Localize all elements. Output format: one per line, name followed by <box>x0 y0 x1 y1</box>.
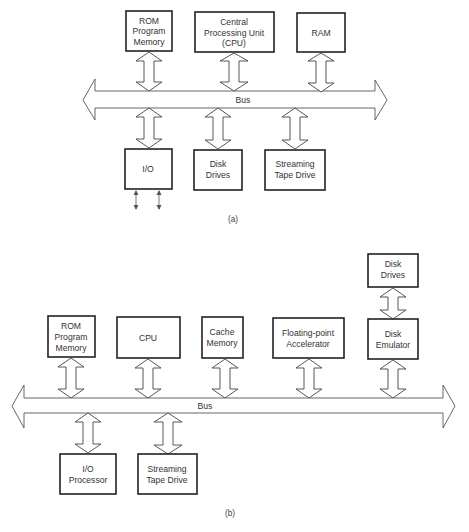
cpu-label-line1: Central <box>220 17 248 27</box>
diagram-b: Disk Drives ROM Program Memory CPU Cache… <box>12 254 455 518</box>
floating-point-accelerator-block: Floating-point Accelerator <box>273 318 344 358</box>
bus-label: Bus <box>236 95 251 105</box>
cpu-bus-connector-arrow <box>135 359 161 398</box>
cache-label-line1: Cache <box>210 327 235 337</box>
ram-block: RAM <box>297 13 345 52</box>
rom-label-line1: ROM <box>139 16 159 26</box>
diagram-a-caption: (a) <box>228 215 238 224</box>
io-processor-block: I/O Processor <box>60 454 116 494</box>
streaming-tape-label-line1: Streaming <box>275 159 314 169</box>
io-block: I/O <box>125 149 172 189</box>
rom-program-memory-block: ROM Program Memory <box>126 11 172 51</box>
cache-bus-connector-arrow <box>212 359 238 398</box>
fp-label-line1: Floating-point <box>282 328 335 338</box>
disk-emulator-label-line2: Emulator <box>376 340 411 350</box>
rom-label-line3: Memory <box>55 343 87 353</box>
io-processor-label-line1: I/O <box>82 464 94 474</box>
disk-drives-block: Disk Drives <box>194 150 242 190</box>
io-label: I/O <box>142 164 154 174</box>
io-processor-bus-connector-arrow <box>75 413 101 453</box>
disk-drives-label-line2: Drives <box>381 270 405 280</box>
disk-drives-label-line1: Disk <box>210 159 227 169</box>
rom-label-line1: ROM <box>61 321 81 331</box>
streaming-tape-label-line2: Tape Drive <box>274 170 315 180</box>
disk-drives-label-line2: Drives <box>206 170 230 180</box>
diagram-b-caption: (b) <box>225 509 235 518</box>
io-external-line-arrows <box>134 190 162 210</box>
streaming-tape-drive-block: Streaming Tape Drive <box>265 150 325 190</box>
cpu-bus-connector-arrow <box>220 53 248 91</box>
cache-label-line2: Memory <box>206 338 238 348</box>
disk-emulator-label-line1: Disk <box>385 329 402 339</box>
disk-drives-block: Disk Drives <box>368 254 418 287</box>
ram-label: RAM <box>311 28 330 38</box>
cpu-label: CPU <box>139 333 157 343</box>
disk-emulator-block: Disk Emulator <box>368 319 418 359</box>
fp-label-line2: Accelerator <box>286 339 330 349</box>
cache-memory-block: Cache Memory <box>202 317 243 358</box>
streaming-tape-label-line1: Streaming <box>147 464 186 474</box>
disk-drives-bus-connector-arrow <box>205 108 231 149</box>
rom-label-line2: Program <box>133 26 166 36</box>
io-bus-connector-arrow <box>136 108 162 148</box>
rom-label-line2: Program <box>55 332 88 342</box>
io-processor-label-line2: Processor <box>69 475 108 485</box>
rom-program-memory-block: ROM Program Memory <box>48 316 95 357</box>
streaming-tape-bus-connector-arrow <box>154 413 182 454</box>
disk-emulator-bus-connector-arrow <box>380 360 406 398</box>
ram-bus-connector-arrow <box>308 53 334 92</box>
rom-label-line3: Memory <box>133 37 165 47</box>
diagram-a: Bus ROM Program Memory Central Processin… <box>83 11 387 224</box>
cpu-label-line3: (CPU) <box>222 38 246 48</box>
streaming-tape-label-line2: Tape Drive <box>146 475 187 485</box>
streaming-tape-bus-connector-arrow <box>282 108 308 149</box>
cpu-block: CPU <box>117 317 180 358</box>
disk-drives-emulator-connector-arrow <box>380 288 406 319</box>
disk-drives-label-line1: Disk <box>385 259 402 269</box>
cpu-block: Central Processing Unit (CPU) <box>195 12 274 52</box>
rom-bus-connector-arrow <box>136 52 162 91</box>
bus-label: Bus <box>198 401 213 411</box>
cpu-label-line2: Processing Unit <box>204 28 265 38</box>
rom-bus-connector-arrow <box>58 358 84 398</box>
streaming-tape-drive-block: Streaming Tape Drive <box>138 454 197 494</box>
fp-accelerator-bus-connector-arrow <box>296 359 322 398</box>
system-architecture-diagrams: Bus ROM Program Memory Central Processin… <box>0 0 469 532</box>
